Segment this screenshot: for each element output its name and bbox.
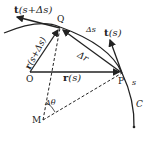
label-delta-r: Δr — [75, 49, 91, 64]
label-r-s-ds: r(s+Δs) — [23, 35, 49, 71]
label-r-s: r(s) — [63, 72, 81, 83]
label-s: s — [132, 78, 136, 87]
dashed-mp — [43, 73, 122, 120]
label-delta-s: Δs — [85, 25, 96, 34]
curve-tangent-diagram: t(s+Δs) Q Δs t(s) r(s+Δs) Δr O r(s) P s … — [0, 0, 147, 141]
label-t-s-ds: t(s+Δs) — [14, 4, 52, 15]
curve-end-dot — [133, 126, 136, 129]
label-c: C — [136, 99, 143, 109]
label-m: M — [32, 115, 41, 125]
label-delta-theta: Δθ — [44, 98, 56, 107]
label-t-s: t(s) — [104, 27, 122, 38]
label-q: Q — [57, 14, 64, 24]
label-o: O — [26, 74, 33, 84]
label-p: P — [118, 76, 124, 86]
